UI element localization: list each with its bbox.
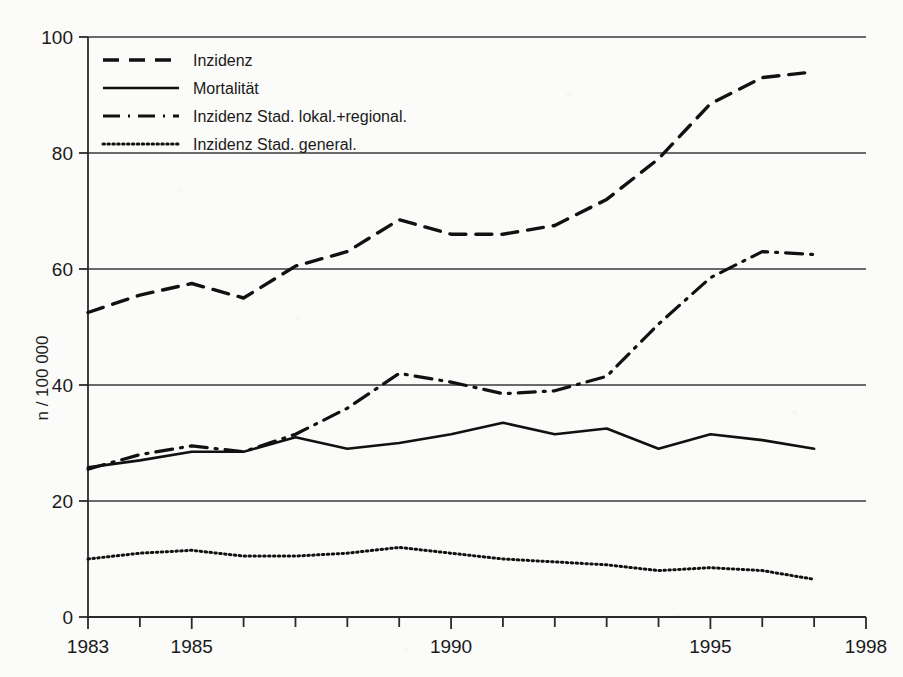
legend-label-0: Inzidenz xyxy=(193,52,253,69)
y-tick-label-20: 20 xyxy=(52,491,73,512)
x-tick-label-1995: 1995 xyxy=(689,636,731,657)
series-line-3 xyxy=(88,547,814,579)
y-tick-label-100: 100 xyxy=(41,27,73,48)
x-tick-label-1983: 1983 xyxy=(67,636,109,657)
x-axis-tick-labels: 19831985199019951998 xyxy=(67,636,887,657)
y-tick-label-80: 80 xyxy=(52,143,73,164)
x-tick-label-1985: 1985 xyxy=(171,636,213,657)
x-axis-ticks xyxy=(88,617,866,629)
legend-label-1: Mortalität xyxy=(193,80,259,97)
y-axis-tick-labels: 020406080100 xyxy=(41,27,73,628)
x-tick-label-1990: 1990 xyxy=(430,636,472,657)
y-tick-label-0: 0 xyxy=(62,607,73,628)
y-tick-label-40: 40 xyxy=(52,375,73,396)
legend-label-2: Inzidenz Stad. lokal.+regional. xyxy=(193,108,407,125)
line-chart: 020406080100 19831985199019951998 n / 10… xyxy=(0,0,903,677)
x-tick-label-1998: 1998 xyxy=(845,636,887,657)
y-axis-ticks xyxy=(79,37,88,617)
legend-label-3: Inzidenz Stad. general. xyxy=(193,136,357,153)
chart-figure: 020406080100 19831985199019951998 n / 10… xyxy=(0,0,903,677)
y-tick-label-60: 60 xyxy=(52,259,73,280)
gridlines xyxy=(88,37,866,501)
y-axis-title: n / 100 000 xyxy=(33,335,52,420)
chart-legend: InzidenzMortalitätInzidenz Stad. lokal.+… xyxy=(103,52,407,153)
